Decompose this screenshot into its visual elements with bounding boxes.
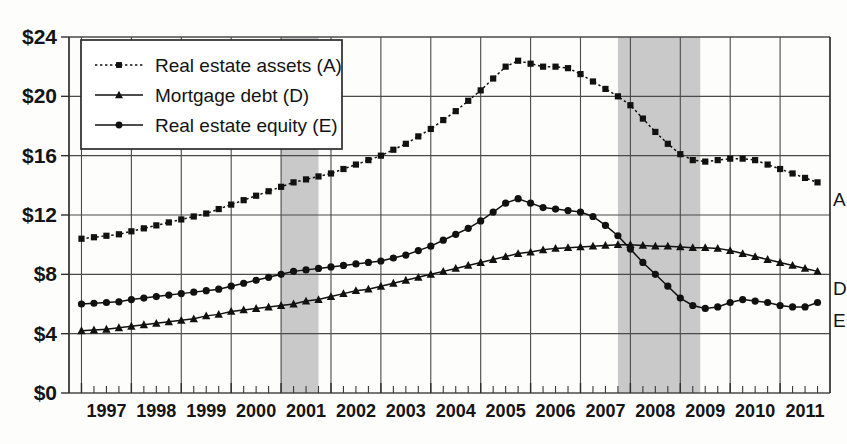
data-point-marker: [490, 75, 496, 81]
x-axis-tick-label: 2003: [386, 401, 426, 421]
data-point-marker: [153, 222, 159, 228]
data-point-marker: [390, 254, 397, 261]
data-point-marker: [802, 175, 808, 181]
data-point-marker: [228, 283, 235, 290]
data-point-marker: [789, 170, 795, 176]
legend-label-d: Mortgage debt (D): [155, 85, 309, 106]
data-point-marker: [714, 303, 721, 310]
data-point-marker: [178, 290, 185, 297]
data-point-marker: [752, 157, 758, 163]
x-axis-tick-label: 2004: [436, 401, 476, 421]
data-point-marker: [789, 303, 796, 310]
data-point-marker: [315, 173, 321, 179]
data-point-marker: [527, 61, 533, 67]
data-point-marker: [241, 197, 247, 203]
x-axis-tick-label: 1997: [86, 401, 126, 421]
data-point-marker: [552, 64, 558, 70]
data-point-marker: [353, 161, 359, 167]
data-point-marker: [91, 234, 97, 240]
data-point-marker: [677, 151, 683, 157]
data-point-marker: [440, 237, 447, 244]
data-point-marker: [140, 294, 147, 301]
data-point-marker: [665, 141, 671, 147]
data-point-marker: [365, 157, 371, 163]
data-point-marker: [415, 247, 422, 254]
data-point-marker: [390, 147, 396, 153]
data-point-marker: [677, 294, 684, 301]
data-point-marker: [290, 179, 296, 185]
data-point-marker: [690, 157, 696, 163]
x-axis-tick-label: 2006: [536, 401, 576, 421]
data-point-marker: [128, 296, 135, 303]
data-point-marker: [402, 251, 409, 258]
data-point-marker: [190, 289, 197, 296]
data-point-marker: [602, 86, 608, 92]
x-axis-tick-label: 2010: [735, 401, 775, 421]
data-point-marker: [377, 257, 384, 264]
x-axis-tick-label: 2007: [585, 401, 625, 421]
data-point-marker: [278, 184, 284, 190]
data-point-marker: [652, 271, 659, 278]
x-axis-labels: 1997199819992000200120022003200420052006…: [86, 401, 824, 421]
data-point-marker: [253, 277, 260, 284]
data-point-marker: [165, 292, 172, 299]
data-point-marker: [814, 179, 820, 185]
data-point-marker: [453, 108, 459, 114]
data-point-marker: [715, 157, 721, 163]
data-point-marker: [652, 129, 658, 135]
data-point-marker: [116, 62, 122, 68]
data-point-marker: [627, 102, 633, 108]
data-point-marker: [116, 231, 122, 237]
data-point-marker: [215, 286, 222, 293]
data-point-marker: [203, 210, 209, 216]
data-point-marker: [764, 299, 771, 306]
data-point-marker: [765, 161, 771, 167]
data-point-marker: [352, 260, 359, 267]
data-point-marker: [702, 305, 709, 312]
y-axis-tick-label: $8: [34, 262, 58, 285]
data-point-marker: [428, 126, 434, 132]
data-point-marker: [627, 246, 634, 253]
data-point-marker: [577, 208, 584, 215]
data-point-marker: [589, 213, 596, 220]
chart-page: $0$4$8$12$16$20$241997199819992000200120…: [0, 0, 847, 444]
data-point-marker: [477, 217, 484, 224]
data-point-marker: [452, 231, 459, 238]
data-point-marker: [141, 225, 147, 231]
data-point-marker: [266, 188, 272, 194]
series-end-label-d: D: [833, 278, 847, 299]
data-point-marker: [639, 259, 646, 266]
data-point-marker: [340, 262, 347, 269]
data-point-marker: [503, 64, 509, 70]
y-axis-tick-label: $20: [22, 84, 57, 107]
x-axis-tick-label: 2002: [336, 401, 376, 421]
data-point-marker: [727, 299, 734, 306]
data-point-marker: [814, 299, 821, 306]
data-point-marker: [303, 176, 309, 182]
x-axis-tick-label: 1998: [136, 401, 176, 421]
data-point-marker: [328, 170, 334, 176]
data-point-marker: [490, 208, 497, 215]
data-point-marker: [178, 216, 184, 222]
data-point-marker: [290, 268, 297, 275]
data-point-marker: [78, 236, 84, 242]
series-d: D: [77, 240, 846, 334]
data-point-marker: [327, 263, 334, 270]
data-point-marker: [640, 115, 646, 121]
data-point-marker: [502, 200, 509, 207]
x-axis-tick-label: 2011: [786, 401, 825, 421]
data-point-marker: [602, 222, 609, 229]
data-point-marker: [478, 87, 484, 93]
data-point-marker: [302, 266, 309, 273]
data-point-marker: [702, 159, 708, 165]
data-point-marker: [403, 141, 409, 147]
data-point-marker: [115, 298, 122, 305]
data-point-marker: [116, 122, 123, 129]
data-point-marker: [277, 271, 284, 278]
data-point-marker: [216, 206, 222, 212]
data-point-marker: [664, 283, 671, 290]
series-end-label-a: A: [833, 189, 846, 210]
data-point-marker: [315, 265, 322, 272]
data-point-marker: [515, 195, 522, 202]
data-point-marker: [465, 98, 471, 104]
